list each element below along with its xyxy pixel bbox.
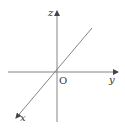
y-axis-label: y — [108, 74, 115, 85]
x-axis-label: x — [20, 112, 26, 123]
coordinate-axes-diagram: z y x O — [0, 0, 125, 133]
z-axis-label: z — [47, 7, 54, 18]
x-axis — [16, 28, 92, 118]
origin-label: O — [59, 75, 67, 86]
